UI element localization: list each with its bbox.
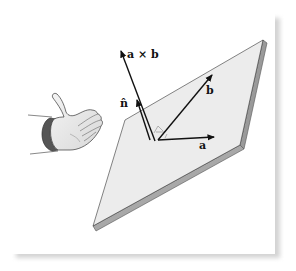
label-cross: a × b [127,48,159,61]
right-hand-icon [28,93,103,154]
label-a: a [199,139,206,152]
cross-product-diagram: a × b n̂ b a [0,0,296,271]
plate [93,40,267,231]
plate-face [93,40,263,226]
label-b: b [206,84,214,97]
label-normal: n̂ [120,97,128,110]
